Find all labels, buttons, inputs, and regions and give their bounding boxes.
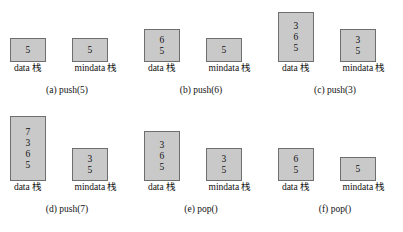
stack-cell: 5	[341, 46, 375, 57]
data-stack-box: 5	[10, 38, 46, 62]
panel-f-stacks: 65 5	[268, 105, 402, 181]
mindata-stack-box: 35	[72, 148, 108, 181]
data-stack-label: data 栈	[134, 62, 190, 75]
panel-b-data-stack: 65	[144, 29, 180, 62]
data-stack-box: 7365	[10, 116, 46, 181]
stack-cell: 3	[73, 154, 107, 165]
stack-cell: 5	[145, 162, 179, 173]
stack-cell: 7	[11, 127, 45, 138]
panel-f-caption: (f) pop()	[268, 203, 402, 215]
panel-c-caption: (c) push(3)	[268, 84, 402, 96]
panel-b: 65 5 data 栈 mindata 栈 (b) push(6)	[134, 0, 268, 96]
data-stack-label: data 栈	[134, 181, 190, 194]
mindata-stack-box: 35	[340, 29, 376, 62]
panel-a-stacks: 5 5	[0, 0, 134, 62]
panel-e-caption: (e) pop()	[134, 203, 268, 215]
panel-b-caption: (b) push(6)	[134, 84, 268, 96]
mindata-stack-label: mindata 栈	[326, 62, 402, 75]
stack-cell: 3	[207, 154, 241, 165]
mindata-stack-label: mindata 栈	[326, 181, 402, 194]
data-stack-box: 365	[278, 12, 314, 62]
stack-cell: 5	[11, 45, 45, 56]
mindata-stack-box: 5	[340, 157, 376, 181]
stack-cell: 6	[145, 35, 179, 46]
mindata-stack-box: 5	[72, 38, 108, 62]
panel-d-labels: data 栈 mindata 栈	[0, 181, 134, 195]
mindata-stack-box: 35	[206, 148, 242, 181]
stack-cell: 5	[341, 164, 375, 175]
stack-cell: 5	[11, 160, 45, 171]
panel-e-mindata-stack: 35	[206, 148, 242, 181]
min-stack-diagram: 5 5 data 栈 mindata 栈 (a) push(5) 65 5 da…	[0, 0, 403, 232]
panel-e-data-stack: 365	[144, 131, 180, 181]
data-stack-label: data 栈	[0, 181, 56, 194]
stack-cell: 3	[145, 140, 179, 151]
data-stack-box: 65	[278, 148, 314, 181]
mindata-stack-label: mindata 栈	[58, 62, 134, 75]
mindata-stack-label: mindata 栈	[58, 181, 134, 194]
panel-a: 5 5 data 栈 mindata 栈 (a) push(5)	[0, 0, 134, 96]
panel-f-mindata-stack: 5	[340, 157, 376, 181]
data-stack-box: 65	[144, 29, 180, 62]
stack-cell: 3	[279, 21, 313, 32]
stack-cell: 5	[279, 165, 313, 176]
panel-c-data-stack: 365	[278, 12, 314, 62]
stack-cell: 5	[145, 46, 179, 57]
panel-d-stacks: 7365 35	[0, 105, 134, 181]
panel-f: 65 5 data 栈 mindata 栈 (f) pop()	[268, 105, 402, 215]
stack-cell: 5	[207, 45, 241, 56]
panel-e: 365 35 data 栈 mindata 栈 (e) pop()	[134, 105, 268, 215]
panel-e-labels: data 栈 mindata 栈	[134, 181, 268, 195]
mindata-stack-box: 5	[206, 38, 242, 62]
mindata-stack-label: mindata 栈	[192, 62, 268, 75]
stack-cell: 5	[73, 45, 107, 56]
stack-cell: 3	[341, 35, 375, 46]
panel-f-labels: data 栈 mindata 栈	[268, 181, 402, 195]
stack-cell: 6	[11, 149, 45, 160]
panel-c: 365 35 data 栈 mindata 栈 (c) push(3)	[268, 0, 402, 96]
data-stack-label: data 栈	[0, 62, 56, 75]
panel-a-caption: (a) push(5)	[0, 84, 134, 96]
data-stack-box: 365	[144, 131, 180, 181]
panel-a-mindata-stack: 5	[72, 38, 108, 62]
panel-d-mindata-stack: 35	[72, 148, 108, 181]
stack-cell: 5	[73, 165, 107, 176]
stack-cell: 6	[279, 32, 313, 43]
panel-b-mindata-stack: 5	[206, 38, 242, 62]
panel-d-caption: (d) push(7)	[0, 203, 134, 215]
panel-b-stacks: 65 5	[134, 0, 268, 62]
panel-c-mindata-stack: 35	[340, 29, 376, 62]
stack-cell: 5	[207, 165, 241, 176]
mindata-stack-label: mindata 栈	[192, 181, 268, 194]
data-stack-label: data 栈	[268, 181, 324, 194]
data-stack-label: data 栈	[268, 62, 324, 75]
stack-cell: 6	[145, 151, 179, 162]
panel-c-labels: data 栈 mindata 栈	[268, 62, 402, 76]
panel-a-labels: data 栈 mindata 栈	[0, 62, 134, 76]
stack-cell: 6	[279, 154, 313, 165]
panel-a-data-stack: 5	[10, 38, 46, 62]
panel-e-stacks: 365 35	[134, 105, 268, 181]
panel-c-stacks: 365 35	[268, 0, 402, 62]
panel-d-data-stack: 7365	[10, 116, 46, 181]
stack-cell: 3	[11, 138, 45, 149]
stack-cell: 5	[279, 43, 313, 54]
panel-f-data-stack: 65	[278, 148, 314, 181]
panel-d: 7365 35 data 栈 mindata 栈 (d) push(7)	[0, 105, 134, 215]
panel-b-labels: data 栈 mindata 栈	[134, 62, 268, 76]
